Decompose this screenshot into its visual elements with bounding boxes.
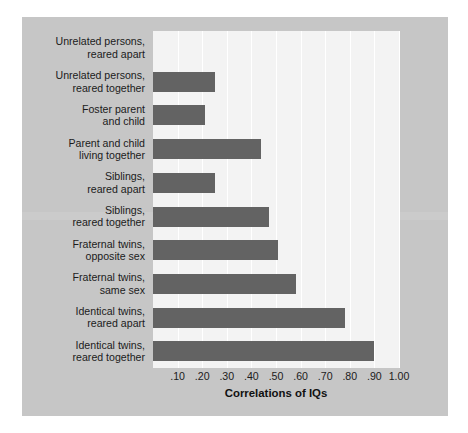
category-label-line: same sex: [30, 284, 145, 296]
category-label: Fraternal twins,opposite sex: [30, 238, 145, 263]
category-label-line: living together: [30, 149, 145, 161]
x-tick-label: .50: [269, 370, 284, 382]
bar: [153, 139, 261, 159]
bar: [153, 72, 215, 92]
bar-row: [153, 200, 399, 234]
category-label-line: Parent and child: [30, 137, 145, 149]
category-label-line: Identical twins,: [30, 305, 145, 317]
category-label: Parent and childliving together: [30, 137, 145, 162]
category-label: Siblings,reared apart: [30, 170, 145, 195]
category-label-line: opposite sex: [30, 250, 145, 262]
category-label-line: Unrelated persons,: [30, 35, 145, 47]
category-label: Foster parentand child: [30, 103, 145, 128]
x-tick-label: .10: [170, 370, 185, 382]
bar-row: [153, 267, 399, 301]
category-label-line: Unrelated persons,: [30, 69, 145, 81]
bar-row: [153, 132, 399, 166]
bar-row: [153, 31, 399, 65]
bar-row: [153, 65, 399, 99]
category-label-line: reared apart: [30, 48, 145, 60]
category-label-line: and child: [30, 115, 145, 127]
category-label: Fraternal twins,same sex: [30, 271, 145, 296]
x-tick-label: .90: [367, 370, 382, 382]
x-axis-ticks: .10.20.30.40.50.60.70.80.901.00: [153, 370, 399, 386]
x-tick-label: .20: [195, 370, 210, 382]
category-label: Siblings,reared together: [30, 204, 145, 229]
category-label-line: reared together: [30, 82, 145, 94]
bar: [153, 173, 215, 193]
category-label: Identical twins,reared together: [30, 339, 145, 364]
category-label-line: Fraternal twins,: [30, 238, 145, 250]
category-axis-labels: Unrelated persons,reared apartUnrelated …: [30, 31, 149, 368]
x-tick-label: .60: [293, 370, 308, 382]
category-label-line: Siblings,: [30, 204, 145, 216]
x-tick-label: .40: [244, 370, 259, 382]
bar: [153, 308, 345, 328]
category-label: Unrelated persons,reared apart: [30, 35, 145, 60]
bar: [153, 105, 205, 125]
bar-row: [153, 233, 399, 267]
x-tick-label: .80: [342, 370, 357, 382]
bar-row: [153, 166, 399, 200]
x-tick-label: .70: [318, 370, 333, 382]
category-label-line: Foster parent: [30, 103, 145, 115]
x-axis-title: Correlations of IQs: [153, 387, 399, 399]
category-label-line: Fraternal twins,: [30, 271, 145, 283]
x-tick-label: 1.00: [389, 370, 410, 382]
bar-row: [153, 334, 399, 368]
category-label: Identical twins,reared apart: [30, 305, 145, 330]
bar: [153, 207, 269, 227]
gridline: [399, 31, 400, 368]
category-label-line: reared apart: [30, 317, 145, 329]
category-label-line: reared apart: [30, 183, 145, 195]
category-label: Unrelated persons,reared together: [30, 69, 145, 94]
category-label-line: reared together: [30, 351, 145, 363]
chart-panel: Unrelated persons,reared apartUnrelated …: [22, 17, 448, 416]
category-label-line: Identical twins,: [30, 339, 145, 351]
figure: Unrelated persons,reared apartUnrelated …: [0, 0, 468, 433]
x-tick-label: .30: [219, 370, 234, 382]
plot-area: [153, 31, 399, 368]
bar-row: [153, 301, 399, 335]
category-label-line: reared together: [30, 216, 145, 228]
bar: [153, 341, 374, 361]
bar: [153, 274, 296, 294]
bar-row: [153, 98, 399, 132]
category-label-line: Siblings,: [30, 170, 145, 182]
bar: [153, 240, 278, 260]
